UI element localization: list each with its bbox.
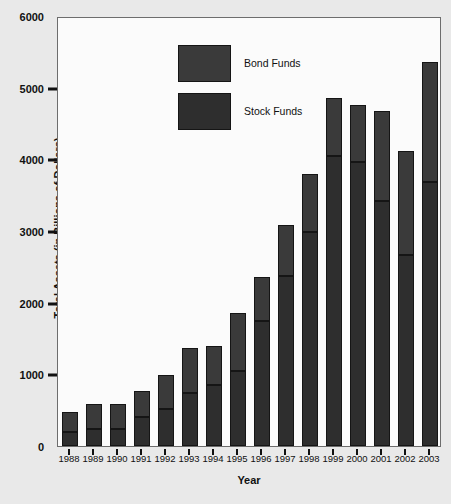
bar-segment-bond-funds bbox=[254, 277, 271, 321]
bar-1995 bbox=[230, 313, 247, 446]
bar-1999 bbox=[326, 98, 343, 446]
legend-label: Bond Funds bbox=[244, 57, 301, 69]
bar-segment-bond-funds bbox=[230, 313, 247, 370]
bar-segment-stock-funds bbox=[86, 429, 103, 446]
x-tick-label: 1990 bbox=[106, 453, 127, 464]
bar-2001 bbox=[374, 111, 391, 446]
bar-segment-bond-funds bbox=[158, 375, 175, 409]
y-tick-label: 2000 bbox=[20, 298, 44, 310]
x-tick-label: 2002 bbox=[394, 453, 415, 464]
x-tick-label: 1992 bbox=[154, 453, 175, 464]
bar-2002 bbox=[398, 151, 415, 446]
legend-swatch bbox=[178, 45, 231, 82]
bar-segment-bond-funds bbox=[110, 404, 127, 428]
bar-segment-stock-funds bbox=[422, 182, 439, 446]
x-tick-label: 1996 bbox=[250, 453, 271, 464]
legend-label: Stock Funds bbox=[244, 105, 302, 117]
bar-segment-stock-funds bbox=[134, 417, 151, 446]
x-tick-label: 1993 bbox=[178, 453, 199, 464]
bar-2003 bbox=[422, 62, 439, 446]
y-tick-label: 6000 bbox=[20, 11, 44, 23]
bar-segment-bond-funds bbox=[422, 62, 439, 182]
x-tick-label: 1988 bbox=[58, 453, 79, 464]
bar-segment-stock-funds bbox=[254, 321, 271, 446]
x-tick-label: 1994 bbox=[202, 453, 223, 464]
y-tick-mark bbox=[48, 231, 57, 234]
bar-segment-stock-funds bbox=[374, 201, 391, 446]
x-tick-label: 2001 bbox=[370, 453, 391, 464]
x-tick-label: 2003 bbox=[418, 453, 439, 464]
bar-1993 bbox=[182, 348, 199, 446]
y-tick-label: 3000 bbox=[20, 226, 44, 238]
bar-segment-bond-funds bbox=[278, 225, 295, 276]
bar-segment-bond-funds bbox=[374, 111, 391, 201]
y-tick-mark bbox=[48, 374, 57, 377]
bar-segment-bond-funds bbox=[182, 348, 199, 393]
x-axis-ticks: 1988198919901991199219931994199519961997… bbox=[57, 449, 441, 469]
bar-segment-bond-funds bbox=[86, 404, 103, 428]
legend-item: Stock Funds bbox=[178, 93, 368, 130]
x-tick-label: 1989 bbox=[82, 453, 103, 464]
x-tick-label: 2000 bbox=[346, 453, 367, 464]
bar-segment-stock-funds bbox=[206, 385, 223, 446]
y-tick-label: 4000 bbox=[20, 154, 44, 166]
bar-2000 bbox=[350, 105, 367, 446]
bar-segment-stock-funds bbox=[230, 371, 247, 446]
bar-1997 bbox=[278, 225, 295, 446]
stacked-bar-chart-figure: Total Assets (in Billions of Dollars) 01… bbox=[0, 0, 451, 504]
y-tick-mark bbox=[48, 302, 57, 305]
y-tick-mark bbox=[48, 159, 57, 162]
x-tick-label: 1998 bbox=[298, 453, 319, 464]
y-tick-label: 5000 bbox=[20, 83, 44, 95]
x-axis-title: Year bbox=[57, 474, 441, 486]
bar-segment-stock-funds bbox=[278, 276, 295, 446]
bar-segment-bond-funds bbox=[398, 151, 415, 255]
bar-segment-stock-funds bbox=[398, 255, 415, 446]
x-tick-label: 1991 bbox=[130, 453, 151, 464]
bar-segment-bond-funds bbox=[62, 412, 79, 432]
bar-segment-bond-funds bbox=[206, 346, 223, 385]
x-tick-label: 1997 bbox=[274, 453, 295, 464]
bar-segment-stock-funds bbox=[110, 429, 127, 446]
legend-swatch bbox=[178, 93, 231, 130]
x-tick-label: 1995 bbox=[226, 453, 247, 464]
y-axis-ticks: 0100020003000400050006000 bbox=[0, 0, 57, 504]
bar-segment-bond-funds bbox=[302, 174, 319, 232]
y-tick-label: 0 bbox=[38, 441, 44, 453]
bar-segment-stock-funds bbox=[62, 432, 79, 446]
bar-segment-bond-funds bbox=[134, 391, 151, 418]
bar-segment-stock-funds bbox=[302, 232, 319, 446]
bar-1989 bbox=[86, 404, 103, 446]
chart-legend: Bond FundsStock Funds bbox=[178, 45, 368, 137]
bar-segment-stock-funds bbox=[158, 409, 175, 446]
y-tick-mark bbox=[48, 87, 57, 90]
bar-segment-stock-funds bbox=[326, 156, 343, 446]
bar-1990 bbox=[110, 404, 127, 446]
y-tick-label: 1000 bbox=[20, 369, 44, 381]
bar-1998 bbox=[302, 174, 319, 446]
bar-1988 bbox=[62, 412, 79, 446]
bar-1996 bbox=[254, 277, 271, 446]
bar-1994 bbox=[206, 346, 223, 446]
bar-segment-stock-funds bbox=[350, 162, 367, 446]
plot-area: Bond FundsStock Funds bbox=[57, 17, 441, 447]
bar-1991 bbox=[134, 391, 151, 446]
bar-segment-stock-funds bbox=[182, 393, 199, 446]
x-tick-label: 1999 bbox=[322, 453, 343, 464]
bar-1992 bbox=[158, 375, 175, 446]
legend-item: Bond Funds bbox=[178, 45, 368, 82]
